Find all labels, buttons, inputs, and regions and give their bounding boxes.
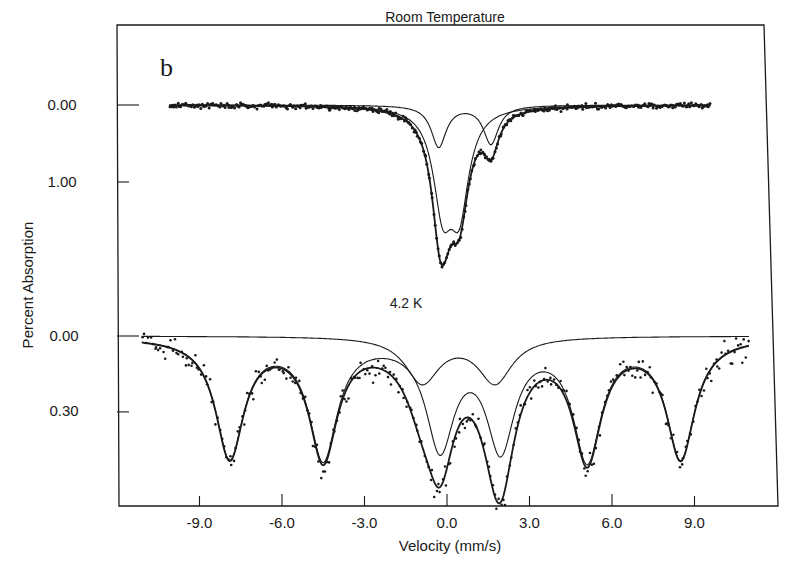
plot-frame — [117, 25, 778, 506]
data-point — [298, 380, 301, 383]
data-point — [382, 364, 385, 367]
data-point — [374, 374, 377, 377]
data-point — [177, 102, 180, 105]
y-tick-label-rt-1: 1.00 — [47, 173, 76, 190]
data-point — [623, 374, 626, 377]
data-point — [723, 340, 726, 343]
data-point — [584, 102, 587, 105]
data-point — [214, 423, 217, 426]
data-point — [177, 353, 180, 356]
x-tick-label: 6.0 — [602, 514, 623, 531]
panel-letter: b — [160, 53, 173, 82]
data-point — [258, 371, 261, 374]
chart-canvas: b Room Temperature 4.2 K 0.00 1.00 0.00 … — [0, 0, 797, 572]
data-point — [220, 102, 223, 105]
data-point — [500, 503, 503, 506]
data-point — [477, 418, 480, 421]
data-point — [155, 346, 158, 349]
data-point — [553, 378, 556, 381]
x-tick-label: -3.0 — [352, 514, 378, 531]
data-point — [549, 377, 552, 380]
spectra-data — [141, 101, 750, 510]
data-point — [185, 364, 188, 367]
data-point — [190, 364, 193, 367]
data-point — [159, 347, 162, 350]
data-point — [544, 367, 547, 370]
data-point — [690, 101, 693, 104]
data-point — [747, 340, 750, 343]
data-point — [324, 470, 327, 473]
data-point — [735, 337, 738, 340]
data-point — [265, 365, 268, 368]
component-fit-curve — [142, 342, 749, 465]
data-point — [745, 356, 748, 359]
data-point — [397, 391, 400, 394]
data-point — [264, 378, 267, 381]
data-point — [453, 446, 456, 449]
data-point — [497, 498, 500, 501]
data-point — [737, 344, 740, 347]
data-point — [436, 490, 439, 493]
data-point — [683, 101, 686, 104]
data-point — [230, 464, 233, 467]
data-point — [209, 378, 212, 381]
data-point — [526, 389, 529, 392]
axes-frame — [117, 25, 778, 506]
x-tick-labels: -9.0 -6.0 -3.0 0.0 3.0 6.0 9.0 — [187, 514, 705, 531]
data-point — [320, 477, 323, 480]
data-point — [731, 362, 734, 365]
data-point — [358, 377, 361, 380]
y-tick-label-lt-0: 0.00 — [49, 327, 78, 344]
data-point — [479, 149, 482, 152]
panel-4.2K — [141, 333, 750, 511]
data-point — [233, 107, 236, 110]
data-point — [644, 374, 647, 377]
data-point — [581, 108, 584, 111]
data-point — [742, 338, 745, 341]
x-tick-label: -6.0 — [269, 514, 295, 531]
data-point — [458, 431, 461, 434]
data-point — [530, 397, 533, 400]
panel-room-temperature — [169, 101, 712, 268]
data-point — [194, 354, 197, 357]
data-point — [206, 102, 209, 105]
data-point — [143, 333, 146, 336]
data-point — [364, 373, 367, 376]
data-point — [377, 360, 380, 363]
total-fit-curve — [169, 105, 710, 265]
data-point — [390, 383, 393, 386]
data-point — [437, 483, 440, 486]
data-point — [229, 455, 232, 458]
data-point — [631, 375, 634, 378]
component-fit-curve — [169, 105, 710, 233]
data-point — [285, 377, 288, 380]
data-point — [368, 372, 371, 375]
data-point — [483, 442, 486, 445]
data-point — [495, 508, 498, 511]
data-point — [199, 107, 202, 110]
data-point — [560, 110, 563, 113]
data-point — [649, 366, 652, 369]
data-point — [256, 107, 259, 110]
data-point — [157, 349, 160, 352]
data-point — [472, 413, 475, 416]
data-point — [597, 107, 600, 110]
data-point — [599, 434, 602, 437]
panel-title-4-2k: 4.2 K — [390, 295, 423, 311]
data-point — [594, 102, 597, 105]
x-axis-title: Velocity (mm/s) — [399, 537, 502, 554]
data-point — [255, 370, 258, 373]
data-point — [187, 364, 190, 367]
data-point — [671, 106, 674, 109]
data-point — [619, 363, 622, 366]
data-point — [504, 504, 507, 507]
data-point — [328, 461, 331, 464]
data-point — [359, 361, 362, 364]
data-point — [710, 380, 713, 383]
component-fit-curve — [142, 336, 749, 385]
x-tick-label: 9.0 — [684, 514, 705, 531]
data-point — [709, 102, 712, 105]
data-point — [565, 390, 568, 393]
data-point — [233, 460, 236, 463]
x-tick-label: 0.0 — [437, 514, 458, 531]
